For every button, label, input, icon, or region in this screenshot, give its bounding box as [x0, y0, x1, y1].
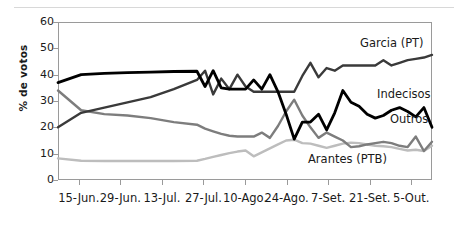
- x-tick-label: 27-Jul.: [185, 191, 222, 205]
- x-tick-label: 7-Set.: [311, 191, 345, 205]
- x-axis-tick-labels: 15-Jun.29-Jun.13-Jul.27-Jul.10-Ago.24-Ag…: [0, 191, 463, 213]
- x-tick-label: 15-Jun.: [58, 191, 99, 205]
- top-divider-rule: [14, 7, 454, 8]
- x-tick-label: 21-Set.: [349, 191, 390, 205]
- x-tick-label: 5-Out.: [393, 191, 429, 205]
- y-tick-label: 10: [28, 148, 54, 159]
- x-tick-mark: [287, 180, 288, 185]
- x-tick-label: 29-Jun.: [100, 191, 141, 205]
- x-tick-label: 10-Ago.: [223, 191, 267, 205]
- x-tick-mark: [411, 180, 412, 185]
- series-label-indecisos: Indecisos: [377, 87, 431, 101]
- x-tick-mark: [245, 180, 246, 185]
- series-label-garcia: Garcia (PT): [360, 36, 424, 50]
- x-tick-mark: [203, 180, 204, 185]
- series-label-outros: Outros: [390, 112, 428, 126]
- poll-line-chart-figure: % de votos 0102030405060 15-Jun.29-Jun.1…: [0, 0, 463, 225]
- series-line: [58, 90, 432, 151]
- y-tick-label: 30: [28, 95, 54, 106]
- series-label-arantes: Arantes (PTB): [308, 152, 387, 166]
- y-tick-label: 50: [28, 42, 54, 53]
- y-tick-label: 60: [28, 16, 54, 27]
- x-tick-label: 13-Jul.: [143, 191, 180, 205]
- x-tick-mark: [120, 180, 121, 185]
- x-tick-mark: [79, 180, 80, 185]
- x-tick-mark: [162, 180, 163, 185]
- x-tick-mark: [328, 180, 329, 185]
- x-axis-tick-marks: [0, 180, 463, 188]
- x-tick-mark: [370, 180, 371, 185]
- y-tick-label: 20: [28, 121, 54, 132]
- x-tick-label: 24-Ago.: [264, 191, 308, 205]
- y-tick-label: 40: [28, 69, 54, 80]
